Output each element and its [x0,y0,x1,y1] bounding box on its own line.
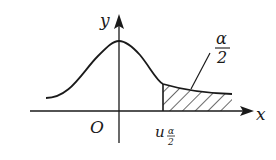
tail-area-den: 2 [216,48,227,67]
critical-value-label: u α 2 [155,123,175,147]
critical-value-sub-den: 2 [167,137,174,147]
critical-value-base: u [155,123,165,141]
origin-label: O [90,117,104,137]
tail-area-label: α 2 [215,29,230,67]
tail-area-hatch [163,84,232,111]
leader-line [191,53,210,89]
x-axis-label: x [256,104,266,124]
tail-area-num: α [216,29,227,48]
critical-value-sub-num: α [168,126,174,136]
density-curve [46,41,232,98]
normal-distribution-diagram: y x O u α 2 α 2 [0,0,276,160]
y-axis-label: y [99,10,110,30]
